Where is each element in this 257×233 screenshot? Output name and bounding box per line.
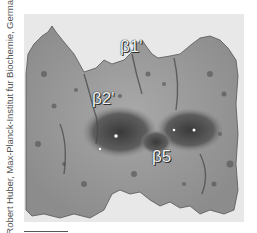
protein-surface-image: β1' β2' β5 — [24, 14, 244, 222]
beta5-label: β5 — [152, 148, 171, 165]
credit-text: Robert Huber, Max-Planck-Institut fur Bi… — [4, 0, 15, 233]
image-credit: Robert Huber, Max-Planck-Institut fur Bi… — [2, 4, 16, 218]
beta2-label: β2' — [92, 90, 114, 107]
scale-bar — [24, 231, 68, 232]
beta1-label: β1' — [120, 38, 142, 55]
